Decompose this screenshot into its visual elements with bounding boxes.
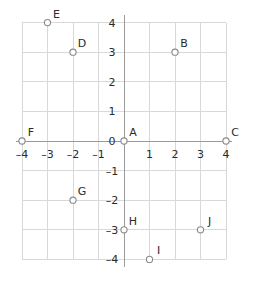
data-point-g[interactable]: [70, 197, 76, 203]
x-tick-label-4: 4: [223, 149, 230, 160]
point-label-e: E: [53, 8, 60, 19]
x-tick-label--2: –2: [67, 149, 80, 160]
point-label-h: H: [129, 215, 137, 226]
point-label-j: J: [208, 215, 211, 226]
point-label-c: C: [231, 127, 239, 138]
y-tick-label--4: –4: [106, 254, 119, 265]
y-tick-label-2: 2: [109, 76, 116, 87]
data-point-j[interactable]: [197, 227, 203, 233]
point-label-b: B: [180, 38, 188, 49]
point-label-f: F: [28, 127, 34, 138]
data-point-i[interactable]: [146, 256, 152, 262]
point-label-i: I: [157, 245, 160, 256]
data-point-e[interactable]: [44, 20, 50, 26]
y-tick-label-1: 1: [109, 106, 116, 117]
point-label-g: G: [78, 186, 87, 197]
x-tick-label-2: 2: [172, 149, 179, 160]
y-tick-label--2: –2: [106, 195, 119, 206]
x-tick-label--3: –3: [41, 149, 54, 160]
data-point-d[interactable]: [70, 49, 76, 55]
x-tick-label-3: 3: [197, 149, 204, 160]
data-point-b[interactable]: [172, 49, 178, 55]
y-tick-label-0: 0: [109, 136, 116, 147]
y-tick-label-3: 3: [109, 47, 116, 58]
y-tick-label--3: –3: [106, 224, 119, 235]
data-point-f[interactable]: [19, 138, 25, 144]
y-tick-label--1: –1: [106, 165, 119, 176]
y-tick-label-4: 4: [109, 17, 116, 28]
x-tick-label--4: –4: [16, 149, 29, 160]
point-label-d: D: [78, 38, 86, 49]
data-point-a[interactable]: [121, 138, 127, 144]
data-point-c[interactable]: [223, 138, 229, 144]
x-tick-label--1: –1: [92, 149, 105, 160]
coordinate-plane: –4–3–2–1123443210–1–2–3–4ABCDEFGHIJ: [0, 0, 266, 297]
data-point-h[interactable]: [121, 227, 127, 233]
point-label-a: A: [129, 127, 137, 138]
x-tick-label-1: 1: [146, 149, 153, 160]
